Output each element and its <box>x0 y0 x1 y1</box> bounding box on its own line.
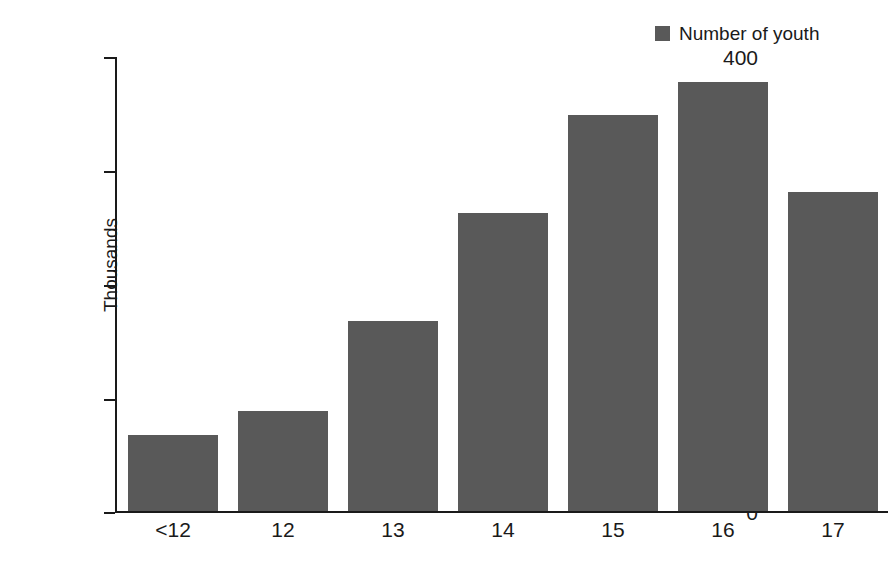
x-axis-line <box>115 511 888 513</box>
x-tick-label-5: 16 <box>678 519 768 540</box>
bar-1 <box>238 411 328 511</box>
x-tick-label-0: <12 <box>128 519 218 540</box>
bar-group-6: 17 <box>788 57 878 511</box>
y-tick-0 <box>104 512 115 514</box>
bar-group-5: 16 <box>678 57 768 511</box>
x-tick-label-6: 17 <box>788 519 878 540</box>
y-tick-200 <box>104 285 115 287</box>
bar-group-3: 14 <box>458 57 548 511</box>
y-tick-300 <box>104 171 115 173</box>
x-tick-label-3: 14 <box>458 519 548 540</box>
bar-group-1: 12 <box>238 57 328 511</box>
y-tick-100 <box>104 399 115 401</box>
legend-label: Number of youth <box>679 24 819 43</box>
bar-chart: Number of youth Thousands 400 300 200 10… <box>0 0 888 573</box>
bar-group-2: 13 <box>348 57 438 511</box>
bar-group-0: <12 <box>128 57 218 511</box>
x-tick-label-4: 15 <box>568 519 658 540</box>
x-tick-label-2: 13 <box>348 519 438 540</box>
y-axis-title: Thousands <box>101 218 120 312</box>
legend-swatch-icon <box>655 26 670 41</box>
bar-group-4: 15 <box>568 57 658 511</box>
bar-2 <box>348 321 438 511</box>
chart-legend: Number of youth <box>655 24 819 43</box>
y-tick-400 <box>104 57 115 59</box>
bar-6 <box>788 192 878 511</box>
bar-0 <box>128 435 218 511</box>
bar-series: <12 12 13 14 15 16 <box>128 57 888 511</box>
bar-5 <box>678 82 768 511</box>
bar-3 <box>458 213 548 512</box>
plot-area: Thousands 400 300 200 100 0 <12 12 13 <box>115 57 888 513</box>
x-tick-label-1: 12 <box>238 519 328 540</box>
bar-4 <box>568 115 658 511</box>
